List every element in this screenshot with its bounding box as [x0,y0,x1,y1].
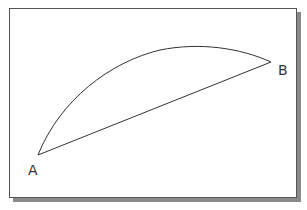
point-a-label: A [28,162,38,178]
arc-curve [38,46,271,155]
point-b-label: B [278,62,288,78]
diagram-canvas [0,0,307,210]
chord-line [38,62,271,155]
